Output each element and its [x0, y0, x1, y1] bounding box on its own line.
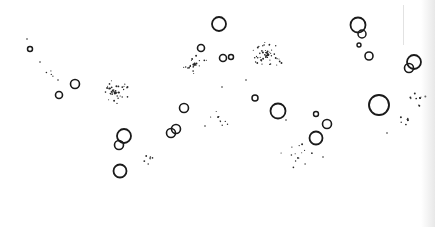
cluster-dot [225, 121, 226, 122]
cluster-dot [271, 55, 272, 56]
cluster-dot [221, 125, 222, 126]
circles-and-dot-clusters-illustration [0, 0, 435, 227]
cluster-dot [260, 59, 262, 61]
cluster-dot [265, 55, 266, 56]
cluster-dot [263, 44, 265, 46]
cluster-dot [267, 51, 268, 52]
cluster-dot [193, 64, 194, 65]
cluster-dot [195, 55, 197, 57]
cluster-dot [105, 91, 107, 93]
cluster-dot [415, 98, 417, 100]
cluster-dot [291, 146, 292, 147]
circle-outline [180, 104, 189, 113]
cluster-dot [189, 65, 191, 67]
cluster-dot [220, 121, 221, 122]
stray-dot [386, 132, 388, 134]
cluster-dot [256, 62, 258, 64]
cluster-dot [109, 83, 111, 85]
cluster-dot [281, 152, 282, 153]
cluster-dot [400, 121, 401, 122]
cluster-dot [277, 58, 278, 59]
cluster-dot [293, 166, 295, 168]
circle-outline [212, 17, 226, 31]
cluster-dot [265, 50, 266, 51]
cluster-dot [256, 56, 257, 57]
cluster-dot [405, 124, 407, 126]
cluster-dot [270, 53, 271, 54]
cluster-dot [291, 154, 293, 156]
cluster-dot [113, 100, 115, 102]
cluster-dot [227, 124, 228, 125]
cluster-dot [262, 58, 264, 60]
cluster-dot [152, 157, 154, 159]
cluster-dot [407, 118, 409, 120]
circle-outline [357, 43, 361, 47]
cluster-dot [311, 152, 313, 154]
cluster-dot [267, 57, 268, 58]
cluster-dot [115, 92, 116, 93]
cluster-dot [295, 153, 296, 154]
stray-dots [26, 38, 388, 158]
cluster-dot [275, 57, 277, 59]
cluster-dot [301, 143, 303, 145]
circle-outlines [28, 17, 422, 178]
cluster-dot [121, 96, 123, 98]
cluster-dot [278, 58, 279, 59]
cluster-dot [185, 66, 186, 67]
cluster-dot [276, 64, 277, 65]
cluster-dot [261, 63, 262, 64]
cluster-dot [260, 57, 261, 58]
cluster-dot [262, 52, 264, 54]
cluster-dot [301, 152, 302, 153]
cluster-dot [111, 80, 112, 81]
circle-outline [365, 52, 373, 60]
circle-outline [220, 55, 227, 62]
cluster-dot [258, 46, 259, 47]
cluster-dot [269, 59, 270, 60]
cluster-dot [279, 61, 281, 63]
cluster-dot [116, 103, 117, 104]
cluster-dot [304, 150, 305, 151]
stray-dot [245, 79, 247, 81]
cluster-dot [52, 76, 53, 77]
circle-outline [114, 165, 127, 178]
cluster-dot [267, 52, 268, 53]
cluster-dot [117, 98, 119, 100]
cluster-dot [203, 59, 205, 61]
cluster-dot [261, 50, 263, 52]
cluster-dot [217, 116, 219, 118]
circle-outline [252, 95, 258, 101]
cluster-dot [191, 58, 193, 60]
cluster-dot [298, 157, 299, 158]
cluster-dot [145, 155, 147, 157]
stray-dot [285, 119, 287, 121]
cluster-dot [120, 95, 121, 96]
cluster-dot [275, 45, 276, 46]
cluster-dot [50, 70, 51, 71]
cluster-dot [183, 67, 184, 68]
cluster-dot [111, 91, 113, 93]
cluster-dot [295, 160, 296, 161]
cluster-dot [265, 52, 266, 53]
cluster-dot [107, 86, 108, 87]
cluster-dot [115, 90, 117, 92]
cluster-dot [281, 62, 283, 64]
cluster-dot [267, 54, 269, 56]
cluster-dot [193, 73, 194, 74]
cluster-dot [253, 50, 254, 51]
cluster-dot [419, 105, 420, 106]
cluster-dot [113, 89, 114, 90]
cluster-dot [257, 57, 259, 59]
cluster-dot [188, 67, 190, 69]
circle-outline [369, 95, 389, 115]
cluster-dot [127, 86, 129, 88]
cluster-dot [46, 72, 48, 74]
cluster-dot [116, 95, 118, 97]
cluster-dot [206, 60, 207, 61]
cluster-dot [147, 163, 149, 165]
page-edge-shadow [421, 0, 435, 227]
circle-outline [271, 104, 286, 119]
cluster-dot [414, 93, 416, 95]
circle-outline [229, 55, 234, 60]
cluster-dot [108, 87, 110, 89]
